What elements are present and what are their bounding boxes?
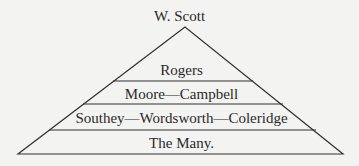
tier-label-the-many: The Many. (2, 135, 359, 151)
tier-label-southey-wordsworth-coleridge: Southey—Wordsworth—Coleridge (2, 110, 359, 126)
apex-label: W. Scott (0, 8, 359, 24)
tier-label-moore-campbell: Moore—Campbell (2, 86, 359, 102)
tier-label-rogers: Rogers (2, 62, 359, 78)
